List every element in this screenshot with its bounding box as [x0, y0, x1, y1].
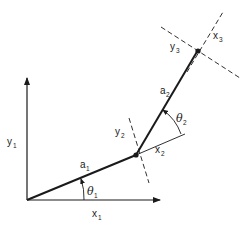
svg-text:2: 2 [166, 91, 170, 98]
label-x2: x 2 [155, 144, 165, 157]
svg-text:x: x [92, 208, 97, 219]
svg-text:3: 3 [176, 47, 180, 54]
label-theta1: θ 1 [87, 185, 98, 199]
svg-text:θ: θ [87, 185, 94, 198]
x3-axis-dashed [187, 12, 223, 72]
label-y1: y 1 [7, 136, 17, 149]
svg-text:1: 1 [13, 142, 17, 149]
svg-text:1: 1 [86, 165, 90, 172]
label-x1: x 1 [92, 208, 102, 221]
svg-text:θ: θ [176, 112, 183, 125]
label-x3: x 3 [213, 30, 223, 43]
svg-text:2: 2 [161, 150, 165, 157]
theta1-arc [81, 179, 84, 200]
label-y2: y 2 [115, 126, 125, 139]
svg-text:2: 2 [183, 119, 187, 126]
svg-text:1: 1 [98, 214, 102, 221]
label-a2: a 2 [160, 85, 170, 98]
svg-text:1: 1 [94, 192, 98, 199]
label-a1: a 1 [80, 159, 90, 172]
joint-1 [133, 152, 138, 157]
link-a2 [136, 50, 198, 155]
svg-text:y: y [7, 136, 12, 147]
svg-text:x: x [213, 30, 218, 41]
svg-text:y: y [115, 126, 120, 137]
svg-text:3: 3 [219, 36, 223, 43]
svg-text:x: x [155, 144, 160, 155]
svg-text:y: y [170, 41, 175, 52]
svg-text:2: 2 [121, 132, 125, 139]
manipulator-diagram: y 1 x 1 a 1 θ 1 y 2 x 2 a 2 θ 2 y 3 x 3 [0, 0, 250, 227]
y3-axis-dashed [161, 27, 240, 78]
label-theta2: θ 2 [176, 112, 187, 126]
joint-2 [195, 48, 200, 53]
label-y3: y 3 [170, 41, 180, 54]
